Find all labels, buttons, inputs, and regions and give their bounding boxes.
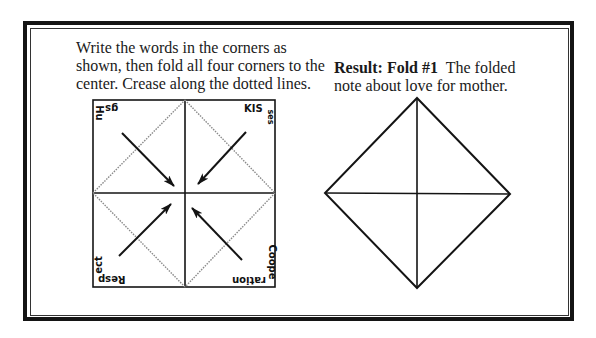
corner-hugs-part1: Hu: [94, 105, 104, 121]
diamond-horizontal-line: [325, 193, 510, 194]
arrow-top-right-icon: [198, 132, 246, 184]
corner-cooperation-part2: ration: [232, 275, 266, 285]
corner-respect-part2: Resp: [98, 274, 126, 284]
corner-hugs-part2: gs: [105, 103, 118, 113]
corner-respect-part1: ect: [94, 256, 104, 274]
folded-result-diagram: [325, 98, 510, 288]
fold-arrows: [119, 132, 246, 260]
corner-word-cooperation: Coope ration: [232, 245, 274, 286]
corner-cooperation-part1: Coope: [267, 244, 277, 279]
corner-kisses-part1: KIS: [244, 104, 263, 114]
corner-word-hugs: Hu gs: [95, 102, 125, 126]
arrow-top-left-icon: [122, 133, 174, 186]
arrow-bottom-left-icon: [119, 204, 171, 256]
corner-kisses-part2: ses: [265, 110, 275, 125]
corner-word-respect: ect Resp: [95, 252, 131, 286]
corner-word-kisses: KIS ses: [244, 102, 274, 128]
diagrams: [0, 0, 596, 338]
